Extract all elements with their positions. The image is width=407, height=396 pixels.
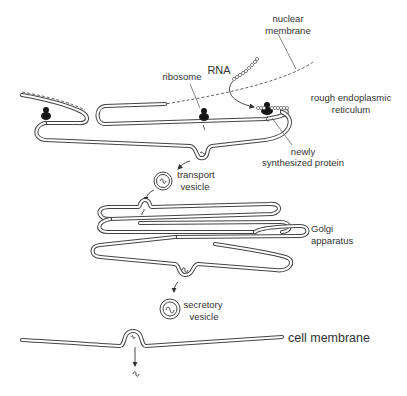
cell-membrane bbox=[22, 331, 282, 346]
transport-vesicle-label-line1: transport bbox=[177, 169, 215, 180]
transport-vesicle-label-line2: vesicle bbox=[180, 181, 209, 192]
golgi-to-secretory-arrow bbox=[174, 282, 178, 292]
nuclear-membrane-label-line2: membrane bbox=[265, 25, 310, 36]
golgi-apparatus bbox=[93, 200, 308, 275]
rough-er-main bbox=[36, 104, 290, 158]
secretory-vesicle-label-line1: secretory bbox=[183, 299, 222, 310]
secretory-vesicle bbox=[160, 299, 180, 319]
rough-er-left-fold bbox=[22, 92, 87, 123]
ribosome-1 bbox=[41, 107, 51, 120]
secreted-protein bbox=[133, 372, 139, 377]
rough-er-label-line1: rough endoplasmic bbox=[311, 92, 392, 103]
protein-secretion-diagram: nuclear membrane bbox=[0, 0, 407, 396]
cell-membrane-label: cell membrane bbox=[288, 331, 370, 345]
golgi-label-line2: apparatus bbox=[311, 235, 354, 246]
new-protein-label-line1: newly bbox=[291, 146, 316, 157]
new-protein-label-line2: synthesized protein bbox=[262, 157, 344, 168]
nuclear-membrane-leader bbox=[278, 34, 296, 69]
transport-vesicle bbox=[154, 172, 172, 190]
secretory-vesicle-label-line2: vesicle bbox=[189, 311, 218, 322]
ribosome-2 bbox=[199, 108, 209, 130]
nuclear-membrane-label-line1: nuclear bbox=[272, 13, 303, 24]
nuclear-membrane bbox=[165, 62, 313, 104]
rna-label: RNA bbox=[207, 64, 231, 76]
rna-arrow bbox=[229, 81, 254, 107]
ribosome-label: ribosome bbox=[162, 71, 201, 82]
rough-er-label-line2: reticulum bbox=[332, 104, 371, 115]
ribosome-leader bbox=[190, 84, 200, 108]
er-to-vesicle-arrow bbox=[178, 161, 190, 169]
golgi-label-line1: Golgi bbox=[311, 223, 333, 234]
